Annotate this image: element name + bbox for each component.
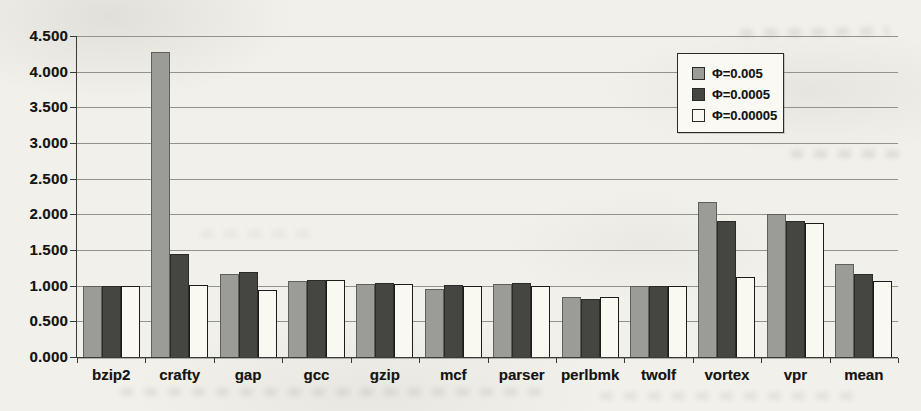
x-axis-category-label: perlbmk bbox=[556, 366, 624, 383]
bar-gzip-Φ=0.0005 bbox=[375, 283, 394, 357]
bar-parser-Φ=0.00005 bbox=[531, 286, 550, 357]
bar-gcc-Φ=0.00005 bbox=[326, 280, 345, 357]
bar-twolf-Φ=0.0005 bbox=[649, 286, 668, 357]
y-axis-tick bbox=[70, 250, 77, 251]
bar-mean-Φ=0.00005 bbox=[873, 281, 892, 357]
bar-perlbmk-Φ=0.005 bbox=[562, 297, 581, 357]
bar-parser-Φ=0.005 bbox=[493, 284, 512, 357]
bar-crafty-Φ=0.00005 bbox=[189, 285, 208, 357]
x-axis-category-label: mcf bbox=[419, 366, 487, 383]
bar-twolf-Φ=0.005 bbox=[630, 286, 649, 357]
bar-vpr-Φ=0.00005 bbox=[805, 223, 824, 357]
bar-twolf-Φ=0.00005 bbox=[668, 286, 687, 357]
bar-mean-Φ=0.005 bbox=[835, 264, 854, 357]
x-axis-category-label: parser bbox=[488, 366, 556, 383]
scanned-page: 0.0000.5001.0001.5002.0002.5003.0003.500… bbox=[0, 0, 921, 411]
legend-item: Φ=0.005 bbox=[692, 63, 783, 84]
y-axis-tick bbox=[70, 357, 77, 358]
x-axis-category-label: vpr bbox=[761, 366, 829, 383]
legend-label: Φ=0.0005 bbox=[712, 87, 770, 102]
gridline bbox=[77, 36, 898, 37]
bar-vpr-Φ=0.0005 bbox=[786, 221, 805, 357]
bar-gap-Φ=0.00005 bbox=[258, 290, 277, 357]
gridline bbox=[77, 143, 898, 144]
x-axis-tick bbox=[282, 358, 283, 363]
x-axis-tick bbox=[488, 358, 489, 363]
x-axis-tick bbox=[419, 358, 420, 363]
bar-gap-Φ=0.005 bbox=[220, 274, 239, 357]
bar-crafty-Φ=0.005 bbox=[151, 52, 170, 357]
legend-swatch-light bbox=[692, 67, 705, 80]
x-axis-category-label: crafty bbox=[145, 366, 213, 383]
x-axis-category-label: mean bbox=[830, 366, 898, 383]
y-axis-tick-label: 3.000 bbox=[0, 135, 68, 151]
legend-item: Φ=0.00005 bbox=[692, 105, 783, 126]
legend-label: Φ=0.005 bbox=[712, 66, 763, 81]
bar-gap-Φ=0.0005 bbox=[239, 272, 258, 357]
x-axis-tick bbox=[556, 358, 557, 363]
bar-mean-Φ=0.0005 bbox=[854, 274, 873, 357]
legend-swatch-dark bbox=[692, 88, 705, 101]
gridline bbox=[77, 179, 898, 180]
bar-gzip-Φ=0.005 bbox=[356, 284, 375, 357]
x-axis-category-label: twolf bbox=[624, 366, 692, 383]
x-axis-category-label: vortex bbox=[693, 366, 761, 383]
bar-bzip2-Φ=0.0005 bbox=[102, 286, 121, 357]
x-axis-tick bbox=[351, 358, 352, 363]
bar-crafty-Φ=0.0005 bbox=[170, 254, 189, 357]
y-axis-tick bbox=[70, 214, 77, 215]
bar-parser-Φ=0.0005 bbox=[512, 283, 531, 357]
x-axis-tick bbox=[830, 358, 831, 363]
legend-label: Φ=0.00005 bbox=[712, 108, 777, 123]
y-axis-tick-label: 4.500 bbox=[0, 28, 68, 44]
x-axis-tick bbox=[693, 358, 694, 363]
x-axis-tick bbox=[761, 358, 762, 363]
bar-gzip-Φ=0.00005 bbox=[394, 284, 413, 357]
bar-gcc-Φ=0.005 bbox=[288, 281, 307, 357]
bar-perlbmk-Φ=0.0005 bbox=[581, 299, 600, 357]
bar-mcf-Φ=0.0005 bbox=[444, 285, 463, 357]
x-axis-category-label: gzip bbox=[351, 366, 419, 383]
y-axis-tick bbox=[70, 107, 77, 108]
y-axis-tick-label: 2.000 bbox=[0, 206, 68, 222]
y-axis-tick-label: 1.000 bbox=[0, 278, 68, 294]
legend-item: Φ=0.0005 bbox=[692, 84, 783, 105]
x-axis-tick bbox=[77, 358, 78, 363]
paper-smudge bbox=[600, 392, 860, 400]
bar-gcc-Φ=0.0005 bbox=[307, 280, 326, 357]
legend-swatch-white bbox=[692, 109, 705, 122]
bar-mcf-Φ=0.00005 bbox=[463, 286, 482, 357]
x-axis-tick bbox=[214, 358, 215, 363]
bar-bzip2-Φ=0.00005 bbox=[121, 286, 140, 357]
y-axis-tick-label: 0.500 bbox=[0, 313, 68, 329]
x-axis-category-label: gap bbox=[214, 366, 282, 383]
bar-bzip2-Φ=0.005 bbox=[83, 286, 102, 357]
bar-vortex-Φ=0.0005 bbox=[717, 221, 736, 357]
bar-vortex-Φ=0.00005 bbox=[736, 277, 755, 357]
bar-vpr-Φ=0.005 bbox=[767, 214, 786, 357]
y-axis-tick bbox=[70, 321, 77, 322]
y-axis-tick bbox=[70, 72, 77, 73]
legend: Φ=0.005 Φ=0.0005 Φ=0.00005 bbox=[677, 53, 784, 133]
bar-vortex-Φ=0.005 bbox=[698, 202, 717, 358]
x-axis-category-label: gcc bbox=[282, 366, 350, 383]
y-axis-tick-label: 3.500 bbox=[0, 99, 68, 115]
x-axis-category-label: bzip2 bbox=[77, 366, 145, 383]
y-axis-tick bbox=[70, 179, 77, 180]
bar-mcf-Φ=0.005 bbox=[425, 289, 444, 357]
y-axis-tick bbox=[70, 286, 77, 287]
y-axis-tick-label: 4.000 bbox=[0, 64, 68, 80]
paper-smudge bbox=[120, 388, 550, 396]
y-axis-tick bbox=[70, 143, 77, 144]
x-axis-tick bbox=[898, 358, 899, 363]
y-axis-tick-label: 0.000 bbox=[0, 349, 68, 365]
y-axis-tick-label: 2.500 bbox=[0, 171, 68, 187]
y-axis-tick-label: 1.500 bbox=[0, 242, 68, 258]
x-axis-tick bbox=[145, 358, 146, 363]
y-axis-tick bbox=[70, 36, 77, 37]
x-axis-tick bbox=[624, 358, 625, 363]
bar-perlbmk-Φ=0.00005 bbox=[600, 297, 619, 357]
